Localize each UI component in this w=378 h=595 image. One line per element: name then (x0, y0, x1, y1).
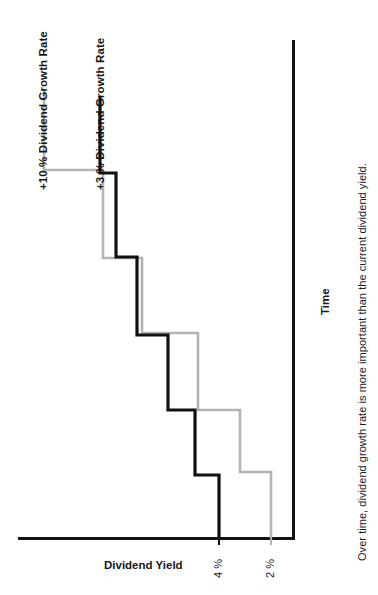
series-label-black-3pct: +3 % Dividend Growth Rate (95, 38, 107, 190)
series-line-grey-10pct (44, 90, 271, 538)
axis-title-dividend-yield: Dividend Yield (104, 560, 183, 572)
series-label-grey-10pct: +10 % Dividend Growth Rate (38, 31, 50, 190)
axis-title-time: Time (320, 288, 332, 315)
series-line-black-3pct (100, 97, 219, 538)
tick-label-2-percent: 2 % (265, 559, 276, 578)
tick-label-4-percent: 4 % (213, 559, 224, 578)
figure-caption: Over time, dividend growth rate is more … (357, 163, 368, 561)
figure-container: +10 % Dividend Growth Rate +3 % Dividend… (0, 0, 378, 595)
